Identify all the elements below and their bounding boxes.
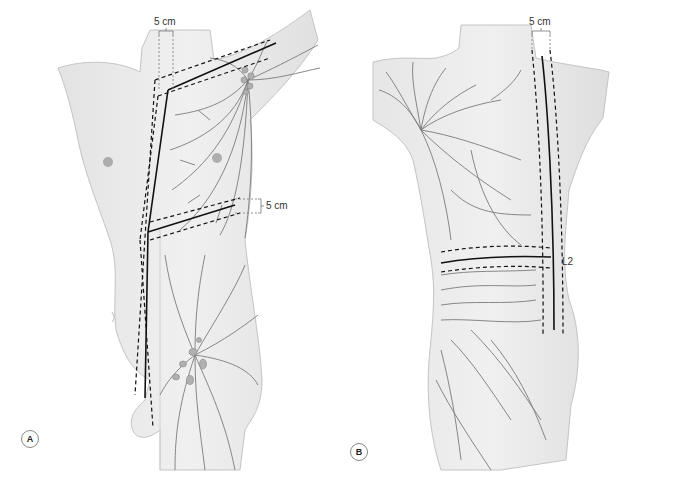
body-silhouette [58,10,318,470]
l2-level-label: L2 [562,256,573,267]
posterior-torso-illustration [341,0,682,490]
anterior-torso-illustration [0,0,341,490]
waist-width-label-a: 5 cm [266,200,288,211]
panel-b-badge: B [350,443,368,461]
neck-width-label-a: 5 cm [154,16,176,27]
body-silhouette [373,25,609,470]
panel-a-anterior-view: 5 cm 5 cm A [0,0,341,490]
nipple-left [212,153,222,163]
panel-b-posterior-view: 5 cm L2 B [341,0,682,490]
panel-a-badge: A [21,430,39,448]
nipple-right [103,157,113,167]
neck-width-label-b: 5 cm [529,16,551,27]
